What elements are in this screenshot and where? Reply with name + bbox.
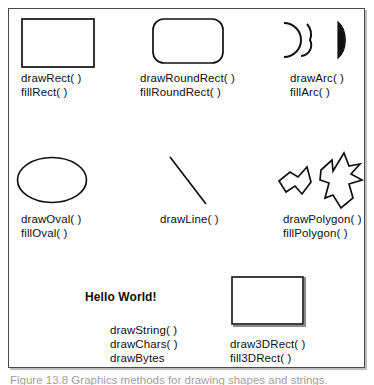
arc-shape xyxy=(280,18,355,63)
oval-shape xyxy=(16,156,88,204)
label-fill-polygon: fillPolygon( ) xyxy=(283,226,348,241)
label-draw-3d-rect: draw3DRect( ) xyxy=(230,337,305,352)
label-fill-round-rect: fillRoundRect( ) xyxy=(140,85,221,100)
label-draw-polygon: drawPolygon( ) xyxy=(283,212,362,227)
line-shape xyxy=(168,155,210,207)
label-fill-arc: fillArc( ) xyxy=(290,85,330,100)
label-draw-line: drawLine( ) xyxy=(160,212,219,227)
figure-root: drawRect( ) fillRect( ) drawRoundRect( )… xyxy=(0,0,374,385)
hello-world-text: Hello World! xyxy=(85,290,157,305)
label-draw-chars: drawChars( ) xyxy=(110,337,178,352)
label-fill-oval: fillOval( ) xyxy=(21,226,67,241)
rounded-rectangle-shape xyxy=(152,18,224,64)
label-draw-oval: drawOval( ) xyxy=(21,212,82,227)
label-draw-round-rect: drawRoundRect( ) xyxy=(140,71,235,86)
label-fill-3d-rect: fill3DRect( ) xyxy=(230,351,291,366)
label-draw-arc: drawArc( ) xyxy=(290,71,344,86)
label-draw-string: drawString( ) xyxy=(110,323,177,338)
label-draw-rect: drawRect( ) xyxy=(21,71,82,86)
polygon-shape xyxy=(277,150,365,212)
label-draw-bytes: drawBytes xyxy=(110,351,165,366)
label-fill-rect: fillRect( ) xyxy=(21,85,67,100)
three-d-rectangle-shape xyxy=(230,275,306,327)
rectangle-shape xyxy=(21,18,95,68)
figure-caption: Figure 13.8 Graphics methods for drawing… xyxy=(10,374,328,385)
